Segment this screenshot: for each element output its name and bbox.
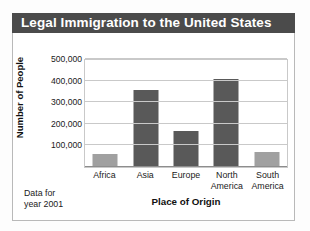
x-axis-tick-label-line: South [247,170,288,181]
gridline [85,123,287,124]
bar-slot [85,60,125,166]
x-axis-tick-label: SouthAmerica [247,170,288,191]
plot-area [84,59,288,168]
footnote-line-1: Data for [24,188,63,199]
y-axis-label: Number of People [14,53,25,143]
x-axis-tick-label: Asia [125,170,166,181]
chart-figure: Legal Immigration to the United States N… [0,0,310,231]
gridline [85,58,287,59]
x-axis-tick-label-line: Europe [166,170,207,181]
x-axis-tick-label-line: Asia [125,170,166,181]
bar-series [85,60,287,167]
gridline [85,144,287,145]
y-axis-tick-label: 500,000 [36,54,82,64]
x-axis-tick-label-line: North [206,170,247,181]
page-title: Legal Immigration to the United States [21,15,272,30]
gridline [85,80,287,81]
y-axis-tick-label: 400,000 [36,76,82,86]
y-axis-tick-labels: 100,000200,000300,000400,000500,000 [32,59,82,168]
chart-footnote: Data for year 2001 [24,188,63,210]
bar-slot [247,60,287,166]
bar-europe[interactable] [173,131,198,166]
bar-slot [166,60,206,166]
bar-south-america[interactable] [254,152,279,166]
x-axis-label: Place of Origin [84,196,288,207]
bar-slot [206,60,246,166]
x-axis-tick-label-line: America [247,181,288,192]
y-axis-tick-label: 300,000 [36,97,82,107]
x-axis-tick-label-line: Africa [84,170,125,181]
y-axis-tick-label: 100,000 [36,140,82,150]
x-axis-tick-label: NorthAmerica [206,170,247,191]
x-axis-tick-label: Europe [166,170,207,181]
y-axis-tick-label: 200,000 [36,119,82,129]
x-axis-tick-label: Africa [84,170,125,181]
x-axis-tick-label-line: America [206,181,247,192]
chart-title-bar: Legal Immigration to the United States [12,13,295,33]
bar-slot [125,60,165,166]
x-axis-tick-labels: AfricaAsiaEuropeNorthAmericaSouthAmerica [84,170,288,194]
footnote-line-2: year 2001 [24,199,63,210]
bar-africa[interactable] [93,154,118,166]
gridline [85,101,287,102]
x-axis-line [85,166,287,167]
